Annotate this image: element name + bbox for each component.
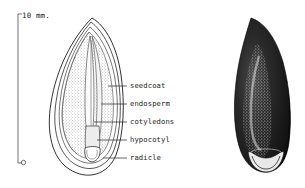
scale-bar-end-dot [21, 160, 25, 164]
longitudinal-section-panel [49, 18, 123, 175]
label-radicle: radicle [130, 153, 161, 162]
label-cotyledons: cotyledons [130, 117, 174, 126]
scale-bar-label: 10 mm. [22, 11, 50, 20]
label-seedcoat: seedcoat [130, 81, 165, 90]
figure-canvas: 10 mm. [0, 0, 305, 188]
whole-seed-panel [234, 18, 295, 176]
seed-structure-figure: 10 mm. [0, 0, 305, 188]
scale-bar: 10 mm. [18, 11, 50, 165]
label-endosperm: endosperm [130, 99, 170, 108]
scale-bar-line [18, 14, 22, 163]
label-hypocotyl: hypocotyl [130, 135, 170, 144]
